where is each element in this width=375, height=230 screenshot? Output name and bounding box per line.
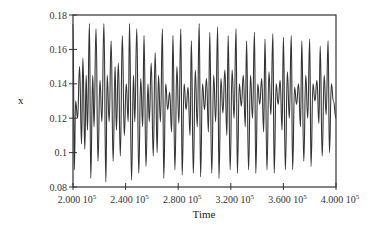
- y-tick-label: 0.14: [50, 78, 68, 89]
- x-tick-label: 3.200 105: [216, 193, 255, 205]
- y-tick-label: 0.12: [50, 113, 68, 124]
- data-series-line: [73, 24, 336, 182]
- y-tick-label: 0.18: [50, 10, 68, 21]
- x-tick-label: 2.400 105: [110, 193, 149, 205]
- y-axis-label: x: [18, 94, 24, 106]
- line-chart: 0.080.10.120.140.160.18 2.000 1052.400 1…: [0, 0, 375, 230]
- x-axis-label: Time: [193, 208, 216, 220]
- series-x-path: [73, 24, 336, 182]
- y-tick-label: 0.16: [50, 44, 68, 55]
- x-tick-label: 4.000 105: [321, 193, 360, 205]
- y-tick-label: 0.1: [55, 147, 68, 158]
- x-axis: 2.000 1052.400 1052.800 1053.200 1053.60…: [58, 183, 360, 205]
- x-tick-label: 3.600 105: [268, 193, 307, 205]
- y-tick-label: 0.08: [50, 182, 68, 193]
- x-tick-label: 2.000 105: [58, 193, 97, 205]
- x-tick-label: 2.800 105: [163, 193, 202, 205]
